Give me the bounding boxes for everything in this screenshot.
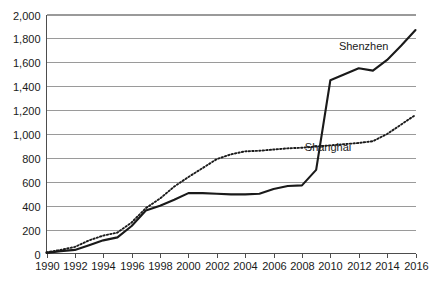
y-axis-tick-label: 200 [22, 225, 40, 237]
y-axis-tick-label: 1,600 [13, 57, 41, 69]
y-axis-tick-labels: 02004006008001,0001,2001,4001,6001,8002,… [13, 10, 41, 261]
y-axis-tick-label: 1,400 [13, 81, 41, 93]
x-axis-tick-label: 2010 [318, 260, 342, 272]
x-axis-tick-label: 2004 [233, 260, 257, 272]
x-axis-tick-label: 2014 [375, 260, 399, 272]
series-label-shanghai: Shanghai [305, 141, 352, 153]
x-axis-tick-label: 1990 [35, 260, 59, 272]
y-axis-tick-label: 600 [22, 177, 40, 189]
x-axis-tick-label: 1998 [148, 260, 172, 272]
x-axis-tick-label: 2012 [347, 260, 371, 272]
y-axis-tick-label: 1,000 [13, 129, 41, 141]
x-axis-tick-label: 2000 [176, 260, 200, 272]
x-axis-tick-labels: 1990199219941996199820002002200420062008… [35, 260, 428, 272]
y-axis-tick-label: 2,000 [13, 10, 41, 22]
x-axis-tick-label: 1996 [120, 260, 144, 272]
x-axis-tick-label: 2008 [290, 260, 314, 272]
y-axis-tick-label: 1,800 [13, 33, 41, 45]
series-annotations-group: ShenzhenShanghai [305, 40, 389, 153]
data-series-group [47, 30, 416, 253]
x-axis-tick-label: 1994 [91, 260, 115, 272]
y-axis-tick-label: 1,200 [13, 105, 41, 117]
x-axis-tick-label: 2002 [205, 260, 229, 272]
series-line-shanghai [47, 115, 416, 252]
series-label-shenzhen: Shenzhen [339, 40, 389, 52]
chart-canvas: 02004006008001,0001,2001,4001,6001,8002,… [0, 0, 432, 284]
x-axis-tick-label: 2016 [404, 260, 428, 272]
x-axis-tick-label: 1992 [63, 260, 87, 272]
line-chart: 02004006008001,0001,2001,4001,6001,8002,… [0, 0, 432, 284]
series-line-shenzhen [47, 30, 416, 253]
x-axis-tick-label: 2006 [262, 260, 286, 272]
y-axis-tick-label: 800 [22, 153, 40, 165]
y-axis-tick-label: 400 [22, 201, 40, 213]
